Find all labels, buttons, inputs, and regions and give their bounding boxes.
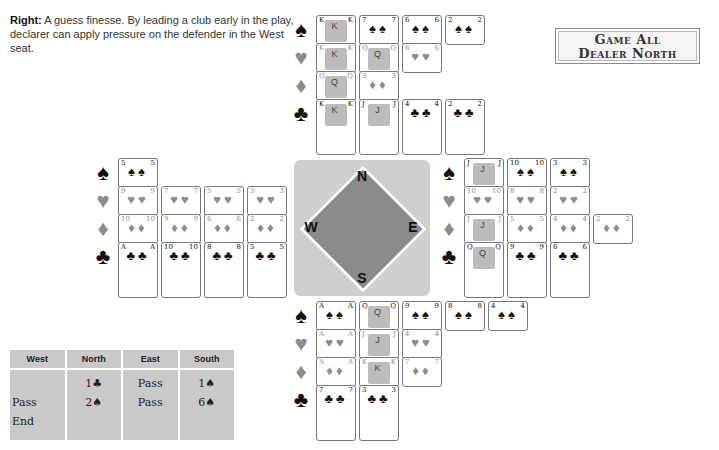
- playing-card: 88♣♣: [204, 242, 244, 298]
- diamonds-pip-icon: ♦♦: [205, 221, 243, 234]
- hearts-pip-icon: ♥♥: [205, 193, 243, 206]
- hearts-pip-icon: Q: [368, 48, 390, 70]
- playing-card: JJJ: [359, 99, 399, 155]
- spades-pip-icon: ♠♠: [403, 308, 441, 321]
- bidding-column-west: Pass End: [10, 370, 65, 440]
- card-rank: Q: [467, 244, 473, 251]
- vulnerability-dealer-box: Game All Dealer North: [555, 28, 700, 64]
- clubs-pip-icon: ♣♣: [119, 249, 157, 262]
- hearts-pip-icon: ♥♥: [162, 193, 200, 206]
- clubs-suit-icon: ♣: [290, 389, 312, 411]
- playing-card: 88♠♠: [445, 301, 485, 331]
- card-rank: K: [348, 45, 353, 52]
- caption: Right: A guess finesse. By leading a clu…: [10, 13, 295, 55]
- playing-card: 99♠♠: [402, 301, 442, 331]
- bid: 1♠: [180, 374, 235, 393]
- diamonds-pip-icon: Q: [325, 76, 347, 98]
- spades-pip-icon: K: [325, 20, 347, 42]
- card-rank: J: [467, 160, 470, 167]
- playing-card: 22♦♦: [247, 214, 287, 244]
- card-rank: J: [467, 216, 470, 223]
- diamonds-pip-icon: ♦♦: [594, 221, 632, 234]
- bid: [180, 412, 235, 431]
- playing-card: 33♠♠: [550, 158, 590, 188]
- card-rank: Q: [390, 45, 396, 52]
- north-hearts-row: KKKQQQ66♥♥: [316, 43, 445, 73]
- spades-pip-icon: ♠♠: [446, 308, 484, 321]
- compass-north-label: N: [355, 168, 369, 184]
- hearts-pip-icon: J: [368, 334, 390, 356]
- bid: Pass: [123, 393, 178, 412]
- clubs-pip-icon: ♣♣: [403, 106, 441, 119]
- north-clubs-row: KKKJJJ44♣♣22♣♣: [316, 99, 488, 155]
- playing-card: KKK: [316, 99, 356, 155]
- west-spades-row: 55♠♠: [118, 158, 161, 188]
- spades-pip-icon: ♠♠: [508, 165, 546, 178]
- compass-west-label: W: [304, 219, 318, 235]
- playing-card: AA♥♥: [316, 329, 356, 359]
- spades-suit-icon: ♠: [438, 162, 460, 184]
- clubs-pip-icon: ♣♣: [446, 106, 484, 119]
- playing-card: 1010♣♣: [161, 242, 201, 298]
- bidding-header: West North East South: [10, 350, 236, 368]
- diamonds-suit-icon: ♦: [290, 75, 312, 97]
- bid: 1♣: [67, 374, 122, 393]
- playing-card: 33♥♥: [247, 186, 287, 216]
- playing-card: 99♦♦: [161, 214, 201, 244]
- bidding-column-east: Pass Pass: [123, 370, 178, 440]
- card-rank: J: [393, 101, 396, 108]
- clubs-pip-icon: J: [368, 104, 390, 126]
- bidding-body: Pass End 1♣ 2♠ Pass Pass 1♠ 6♠: [10, 370, 236, 440]
- spades-suit-icon: ♠: [290, 305, 312, 327]
- card-rank: K: [348, 17, 353, 24]
- diamonds-pip-icon: ♦♦: [403, 364, 441, 377]
- hearts-pip-icon: ♥♥: [508, 193, 546, 206]
- playing-card: 88♥♥: [507, 186, 547, 216]
- caption-lead: Right:: [10, 14, 42, 26]
- diamonds-pip-icon: ♦♦: [551, 221, 589, 234]
- card-rank: K: [348, 101, 353, 108]
- compass-east-label: E: [406, 219, 420, 235]
- bidding-column-north: 1♣ 2♠: [67, 370, 122, 440]
- card-rank: Q: [319, 73, 325, 80]
- playing-card: 44♠♠: [488, 301, 528, 331]
- clubs-pip-icon: K: [325, 104, 347, 126]
- card-rank: Q: [495, 244, 501, 251]
- bid: [10, 374, 65, 393]
- hearts-pip-icon: ♥♥: [403, 50, 441, 63]
- playing-card: 66♠♠: [402, 15, 442, 45]
- card-rank: K: [319, 17, 324, 24]
- clubs-suit-icon: ♣: [92, 246, 114, 268]
- clubs-pip-icon: ♣♣: [162, 249, 200, 262]
- diamonds-suit-icon: ♦: [290, 361, 312, 383]
- spades-pip-icon: J: [473, 163, 495, 185]
- playing-card: 77♣♣: [316, 385, 356, 441]
- playing-card: 55♥♥: [204, 186, 244, 216]
- card-rank: J: [393, 331, 396, 338]
- card-rank: Q: [390, 303, 396, 310]
- bid: [123, 412, 178, 431]
- clubs-pip-icon: ♣♣: [551, 249, 589, 262]
- playing-card: AA♦♦: [316, 357, 356, 387]
- hearts-suit-icon: ♥: [290, 333, 312, 355]
- playing-card: 22♣♣: [445, 99, 485, 155]
- east-hearts-row: 1010♥♥88♥♥22♥♥: [464, 186, 593, 216]
- bidding-header-west: West: [10, 350, 65, 368]
- spades-pip-icon: ♠♠: [489, 308, 527, 321]
- clubs-pip-icon: ♣♣: [317, 392, 355, 405]
- compass-south-label: S: [355, 270, 369, 286]
- card-rank: J: [498, 216, 501, 223]
- playing-card: JJJ: [359, 329, 399, 359]
- spades-pip-icon: ♠♠: [551, 165, 589, 178]
- east-diamonds-row: JJJ55♦♦44♦♦22♦♦: [464, 214, 636, 244]
- west-hearts-row: 99♥♥77♥♥55♥♥33♥♥: [118, 186, 290, 216]
- hearts-suit-icon: ♥: [290, 47, 312, 69]
- diamonds-suit-icon: ♦: [438, 218, 460, 240]
- bidding-header-east: East: [123, 350, 178, 368]
- north-spades-row: KKK77♠♠66♠♠22♠♠: [316, 15, 488, 45]
- bid: Pass: [123, 374, 178, 393]
- playing-card: AA♣♣: [118, 242, 158, 298]
- playing-card: 99♥♥: [118, 186, 158, 216]
- hearts-suit-icon: ♥: [438, 190, 460, 212]
- playing-card: QQQ: [464, 242, 504, 298]
